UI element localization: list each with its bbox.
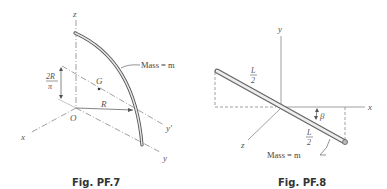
height-arrow-top (59, 67, 63, 71)
height-fraction-denominator: π (48, 82, 53, 91)
half-length-top-denominator: 2 (251, 76, 255, 85)
diagram-canvas: z x y y' O G R 2R π Mass = m Fig. PF.7 y (0, 0, 387, 189)
x-axis-label: x (20, 132, 25, 142)
beta-angle-label: β (319, 111, 325, 121)
y-axis (76, 108, 160, 152)
centroid-point (98, 88, 101, 91)
radius-label: R (100, 99, 107, 109)
beta-arrowhead-bottom (314, 116, 318, 120)
height-arrow-bottom (59, 95, 63, 99)
arc-rod (75, 33, 142, 145)
height-fraction-numerator: 2R (46, 72, 55, 81)
radius-arrowhead (128, 108, 133, 112)
centroid-label: G (96, 76, 103, 86)
figure-pf7: z x y y' O G R 2R π Mass = m Fig. PF.7 (20, 9, 175, 188)
mass-label: Mass = m (267, 150, 301, 160)
y-axis-label: y (277, 24, 282, 34)
y-axis-label: y (162, 153, 167, 163)
mass-leader-line (320, 139, 330, 155)
z-axis (248, 108, 281, 140)
half-length-top-numerator: L (250, 66, 256, 75)
mass-leader-line (121, 65, 140, 68)
height-extension (58, 99, 76, 108)
beta-arrowhead-top (315, 108, 319, 112)
rod-end-cap (343, 140, 348, 145)
figure-pf8: y x z L 2 β L 2 Mass = m Fig. PF.8 (215, 24, 372, 188)
x-axis-label: x (367, 102, 372, 112)
origin-label: O (70, 113, 77, 123)
half-length-bottom-denominator: 2 (307, 138, 311, 147)
y-prime-axis-label: y' (165, 123, 173, 133)
figure-caption: Fig. PF.7 (72, 177, 120, 188)
y-prime-axis (62, 66, 164, 125)
z-axis-label: z (240, 140, 245, 150)
half-length-bottom-numerator: L (306, 128, 312, 137)
arc-rod-highlight (75, 33, 142, 145)
mass-label: Mass = m (141, 60, 175, 70)
figure-caption: Fig. PF.8 (278, 177, 326, 188)
z-axis-label: z (72, 9, 77, 19)
